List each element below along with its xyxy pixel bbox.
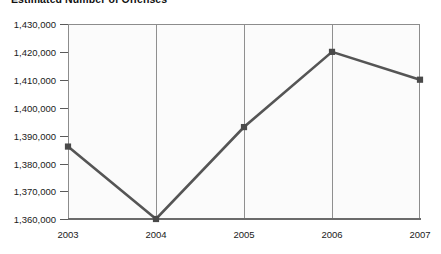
data-point-2004 <box>153 216 159 222</box>
series-line-offenses <box>68 52 420 219</box>
data-point-2006 <box>329 49 335 55</box>
data-series-layer <box>0 0 441 254</box>
data-point-2003 <box>65 143 71 149</box>
data-point-2007 <box>417 77 423 83</box>
line-chart: Estimated Number of Offenses 1,430,000 1… <box>0 0 441 254</box>
series-markers <box>65 49 423 222</box>
data-point-2005 <box>241 124 247 130</box>
